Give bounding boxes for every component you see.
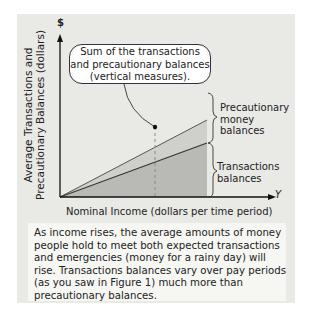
precautionary-label: Precautionary money balances — [220, 102, 289, 137]
y-axis-label: Average Transactions and Precautionary B… — [22, 30, 46, 200]
precautionary-label-line3: balances — [220, 125, 289, 137]
callout-line1: Sum of the transactions — [70, 46, 210, 59]
transactions-label-line1: Transactions — [217, 161, 279, 173]
sum-point-dot — [153, 125, 157, 129]
callout-line2: and precautionary balances — [70, 59, 210, 72]
callout-line3: (vertical measures). — [70, 71, 210, 84]
precautionary-label-line2: money — [220, 114, 289, 126]
callout-box: Sum of the transactions and precautionar… — [69, 44, 211, 84]
x-axis-symbol: Y — [275, 189, 281, 200]
x-axis-label: Nominal Income (dollars per time period) — [66, 206, 272, 217]
transactions-label: Transactions balances — [217, 161, 279, 184]
y-axis-label-line1: Average Transactions and — [22, 30, 34, 200]
y-axis-symbol: $ — [57, 17, 64, 28]
y-axis-label-line2: Precautionary Balances (dollars) — [34, 30, 46, 200]
brace-precautionary — [208, 93, 217, 143]
figure-caption: As income rises, the average amounts of … — [28, 223, 286, 301]
callout-leader — [124, 84, 155, 127]
brace-transactions — [208, 143, 217, 197]
precautionary-label-line1: Precautionary — [220, 102, 289, 114]
transactions-label-line2: balances — [217, 173, 279, 185]
y-axis-arrow — [57, 34, 63, 42]
